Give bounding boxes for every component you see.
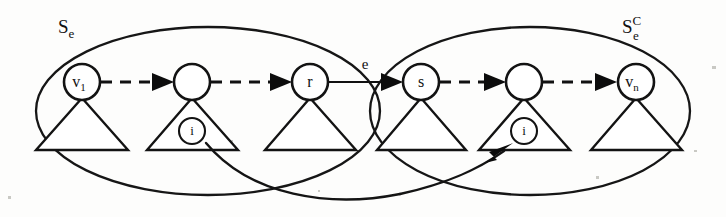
node-n6-subscript: n	[633, 81, 639, 93]
node-n3-base: r	[307, 73, 313, 90]
arrowhead-n3-n4	[381, 73, 403, 91]
node-n4: s	[403, 64, 439, 100]
info-circle-right-label: i	[522, 123, 526, 138]
subtree-triangle-n1	[36, 98, 128, 150]
set-label-left-base: S	[58, 16, 69, 37]
node-n6-base: v	[625, 73, 633, 90]
set-label-left: Se	[58, 16, 75, 41]
node-n2	[0, 0, 210, 100]
subtree-triangle-n3	[265, 98, 356, 150]
node-n1: v1	[64, 64, 100, 100]
svg-text:s: s	[418, 73, 424, 90]
edge-n5-n6	[543, 73, 617, 91]
svg-text:e: e	[362, 56, 369, 72]
set-label-right-base: S	[622, 16, 633, 37]
arrowhead-n1-n2	[152, 73, 174, 91]
arrowhead-n5-n6	[595, 73, 617, 91]
edge-n1-n2	[101, 73, 174, 91]
arrowhead-n2-n3	[270, 73, 292, 91]
set-label-right-superscript: C	[633, 13, 642, 28]
set-label-right-subscript: e	[633, 28, 639, 43]
set-label-left-subscript: e	[69, 26, 75, 41]
edge-n3-n4	[329, 73, 403, 91]
node-n4-base: s	[418, 73, 424, 90]
info-circle-left-label: i	[190, 123, 194, 138]
edge-label-e: e	[362, 56, 369, 72]
svg-text:r: r	[307, 73, 313, 90]
node-n1-base: v	[72, 73, 80, 90]
edge-n2-n3	[211, 73, 292, 91]
svg-text:Se: Se	[58, 16, 75, 41]
figure-root: v1 r s	[0, 0, 726, 217]
info-circle-left: i	[179, 118, 205, 144]
arrowhead-n4-n5	[484, 73, 506, 91]
node-n1-subscript: 1	[80, 81, 86, 93]
node-n3: r	[292, 64, 328, 100]
diagram-canvas: v1 r s	[0, 0, 726, 217]
set-label-right: SC e	[622, 13, 641, 43]
node-n6: vn	[618, 64, 654, 100]
edge-n4-n5	[440, 73, 506, 91]
subtree-triangle-n4	[377, 98, 466, 150]
subtree-triangle-n6	[591, 98, 682, 150]
info-circle-right: i	[511, 118, 537, 144]
